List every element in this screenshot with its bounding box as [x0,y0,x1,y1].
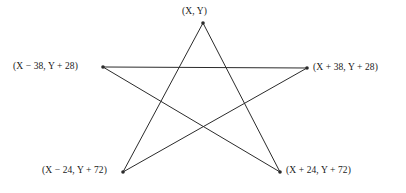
pentagram-vertex-markers [101,21,309,174]
vertex-marker-bottom-left [121,170,125,174]
vertex-label-top: (X, Y) [182,7,207,17]
diagram-canvas: (X, Y) (X − 38, Y + 28) (X + 38, Y + 28)… [0,0,406,193]
vertex-marker-bottom-right [278,170,282,174]
pentagram-edge-left-to-right [103,67,307,68]
vertex-label-bottom-left: (X − 24, Y + 72) [42,166,107,176]
pentagram-edges [103,23,307,172]
vertex-label-bottom-right: (X + 24, Y + 72) [286,166,351,176]
vertex-label-right: (X + 38, Y + 28) [313,63,378,73]
vertex-marker-top [201,21,205,25]
vertex-label-left: (X − 38, Y + 28) [13,62,78,72]
vertex-marker-right [305,66,309,70]
pentagram-edge-bottom-right-to-left [103,67,280,172]
vertex-marker-left [101,65,105,69]
